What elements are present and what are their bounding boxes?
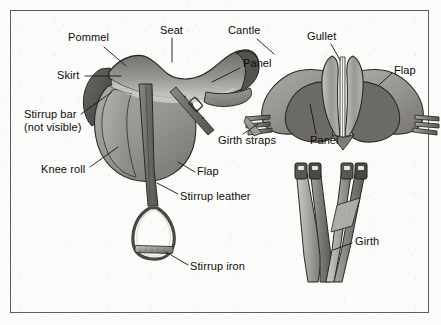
leader-pommel <box>104 47 126 66</box>
girth-buckle-slots <box>298 166 364 170</box>
label-girth: Girth <box>355 235 379 248</box>
label-skirt: Skirt <box>57 69 80 82</box>
label-stirrup-leather: Stirrup leather <box>180 190 251 203</box>
label-stirrup-iron: Stirrup iron <box>190 260 245 273</box>
saddle-side-view <box>83 50 259 259</box>
label-knee-roll: Knee roll <box>41 163 85 176</box>
leader-stirrup-iron <box>166 252 188 265</box>
label-seat: Seat <box>160 24 183 37</box>
label-pommel: Pommel <box>68 31 109 44</box>
girth-illustration <box>295 163 367 282</box>
label-gullet: Gullet <box>307 30 336 43</box>
stirrup-iron-shape <box>133 208 174 259</box>
girth-straps-right <box>413 115 439 135</box>
saddle-diagram-figure: Pommel Seat Cantle Skirt Panel Gullet Fl… <box>0 0 441 325</box>
label-flap-side: Flap <box>197 165 219 178</box>
label-panel-side: Panel <box>243 57 272 70</box>
label-flap-rear: Flap <box>394 64 416 77</box>
label-stirrup-bar: Stirrup bar <box>24 108 76 121</box>
leader-stirrup-leather <box>157 183 178 194</box>
girth-buckles <box>295 163 367 179</box>
label-panel-rear: Panel <box>310 134 339 147</box>
leader-cantle <box>257 39 274 54</box>
label-cantle: Cantle <box>228 24 260 37</box>
label-stirrup-bar-note: (not visible) <box>24 121 82 134</box>
label-girth-straps: Girth straps <box>218 134 276 147</box>
